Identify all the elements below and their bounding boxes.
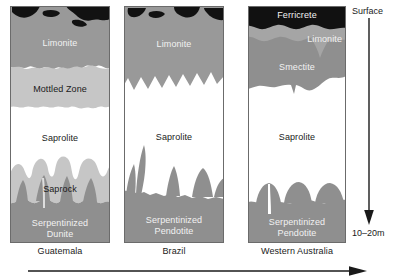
depth-axis-top-label: Surface xyxy=(352,6,383,16)
layer-serpentinized-dunite xyxy=(10,198,110,243)
profile-column-brazil-graphic xyxy=(124,6,224,243)
bottom-axis-arrow-icon xyxy=(28,266,368,280)
profile-column-guatemala-graphic xyxy=(10,6,110,243)
column-caption-western-australia: Western Australia xyxy=(240,246,354,256)
depth-axis-arrow-icon xyxy=(362,18,376,226)
profile-column-brazil: Limonite Saprolite Serpentinized Pendoti… xyxy=(124,6,224,243)
layer-mottled-zone xyxy=(10,66,110,109)
depth-axis-bottom-label: 10–20m xyxy=(352,228,385,238)
profile-column-western-australia: Ferricrete Limonite Smectite Saprolite S… xyxy=(248,6,346,243)
profile-column-guatemala: Limonite Mottled Zone Saprolite Saprock … xyxy=(10,6,110,243)
layer-ferricrete xyxy=(248,6,346,29)
column-caption-guatemala: Guatemala xyxy=(10,246,110,256)
weathering-profile-figure: Limonite Mottled Zone Saprolite Saprock … xyxy=(0,0,396,280)
profile-column-western-australia-graphic xyxy=(248,6,346,243)
layer-serpentinized-peridotite xyxy=(248,200,346,243)
column-caption-brazil: Brazil xyxy=(124,246,224,256)
